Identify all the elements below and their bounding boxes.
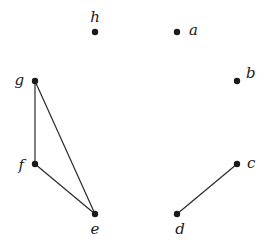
node-b	[234, 78, 240, 84]
node-label-g: g	[14, 71, 24, 89]
node-a	[174, 29, 180, 35]
node-e	[92, 211, 98, 217]
node-label-b: b	[246, 64, 256, 82]
node-g	[32, 78, 38, 84]
node-label-h: h	[90, 8, 100, 26]
nodes-layer: abcdefgh	[14, 8, 256, 238]
node-label-e: e	[91, 220, 100, 238]
edge-g-e	[35, 81, 95, 214]
graph-diagram: abcdefgh	[0, 0, 266, 248]
node-label-d: d	[175, 220, 185, 238]
node-f	[32, 161, 38, 167]
edge-c-d	[177, 164, 237, 214]
node-d	[174, 211, 180, 217]
node-c	[234, 161, 240, 167]
node-label-a: a	[189, 21, 198, 39]
node-label-f: f	[17, 156, 26, 174]
edges-layer	[35, 81, 237, 214]
node-label-c: c	[247, 154, 256, 172]
node-h	[92, 29, 98, 35]
edge-f-e	[35, 164, 95, 214]
